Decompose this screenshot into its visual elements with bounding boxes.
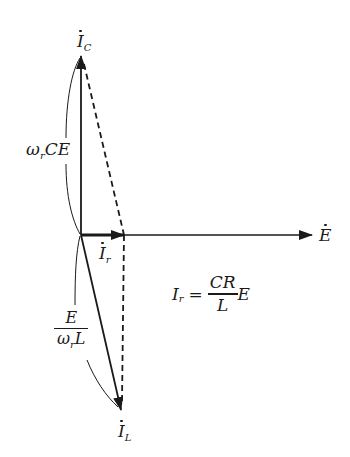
- ic-magnitude-rest: CE: [45, 139, 70, 159]
- ir-formula: Ir = CR L E: [172, 272, 250, 316]
- ic-phasor-label: IC: [77, 33, 91, 50]
- omega-subscript: r: [70, 339, 75, 350]
- fraction-numerator: E: [62, 310, 80, 328]
- ic-magnitude-brace-bottom: [66, 164, 80, 234]
- il-phasor-label: IL: [118, 423, 131, 440]
- formula-lhs-subscript: r: [179, 294, 184, 304]
- il-symbol: I: [118, 423, 125, 440]
- dashed-line-ic-to-ir: [84, 64, 124, 235]
- ic-magnitude-brace-top: [66, 58, 80, 138]
- formula-lhs: I: [172, 286, 179, 303]
- ic-magnitude-label: ωrCE: [26, 141, 70, 158]
- formula-fraction: CR L: [208, 274, 238, 313]
- formula-suffix: E: [238, 286, 250, 303]
- il-magnitude-brace-bottom: [87, 360, 118, 407]
- omega-symbol: ω: [57, 329, 70, 348]
- phasor-diagram: [0, 0, 350, 457]
- omega-symbol: ω: [26, 139, 40, 159]
- ir-phasor-label: Ir: [99, 245, 111, 262]
- ic-subscript: C: [84, 42, 92, 53]
- dashed-line-ir-to-il: [122, 235, 124, 402]
- e-phasor-label: E: [319, 227, 331, 244]
- omega-subscript: r: [40, 150, 45, 161]
- formula-denominator: L: [215, 295, 230, 314]
- il-magnitude-brace-top: [75, 236, 80, 305]
- il-magnitude-fraction: E ωrL: [54, 310, 88, 347]
- inductance-symbol: L: [75, 329, 86, 348]
- il-subscript: L: [125, 432, 132, 443]
- formula-numerator: CR: [208, 274, 238, 293]
- formula-equals: =: [189, 286, 203, 303]
- ic-symbol: I: [77, 33, 84, 50]
- fraction-denominator: ωrL: [54, 329, 88, 347]
- e-symbol: E: [319, 227, 331, 244]
- ir-symbol: I: [99, 245, 106, 262]
- ir-subscript: r: [106, 254, 111, 265]
